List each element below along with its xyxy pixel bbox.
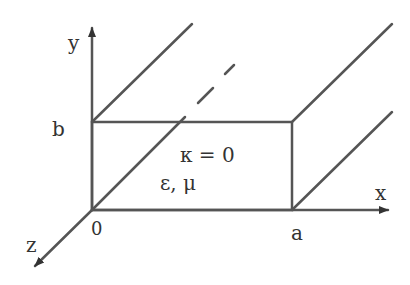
width-label-a: a (291, 221, 303, 245)
waveguide-diagram: y x z 0 b a κ = 0 ε, μ (0, 0, 410, 285)
edge-hidden-dash-2 (225, 65, 234, 74)
height-label-b: b (52, 117, 65, 141)
z-axis (35, 210, 92, 266)
x-axis-label: x (375, 181, 387, 205)
edge-hidden-dash-1 (198, 88, 213, 103)
edge-top-left (92, 24, 192, 122)
z-axis-label: z (26, 233, 37, 257)
material-label: ε, μ (160, 171, 196, 195)
y-axis-label: y (67, 31, 80, 55)
edge-hidden-solid (92, 117, 185, 210)
edge-top-right (292, 24, 392, 122)
origin-label: 0 (91, 218, 102, 239)
conductivity-label: κ = 0 (180, 143, 235, 167)
